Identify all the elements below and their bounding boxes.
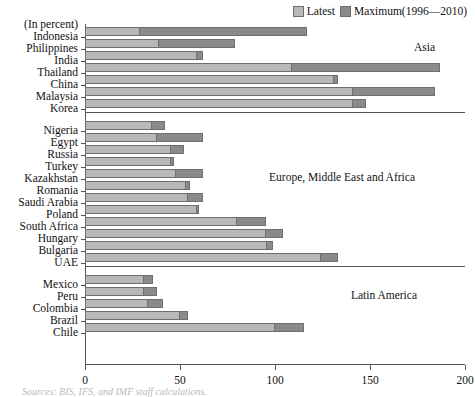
bar-latest	[85, 169, 176, 178]
source-note: Sources: BIS, IFS, and IMF staff calcula…	[22, 386, 462, 397]
x-axis-tick-label: 150	[361, 374, 378, 386]
bar-row	[85, 87, 465, 96]
y-axis-tick	[81, 333, 85, 334]
region-annotation: Asia	[414, 41, 435, 53]
bar-latest	[85, 39, 159, 48]
bar-latest	[85, 241, 267, 250]
bar-row	[85, 75, 465, 84]
bar-latest	[85, 229, 266, 238]
bar-latest	[85, 157, 171, 166]
y-axis-tick	[81, 239, 85, 240]
bar-row	[85, 133, 465, 142]
x-axis-tick-label: 100	[266, 374, 283, 386]
bar-latest	[85, 75, 334, 84]
bar-row	[85, 205, 465, 214]
bar-latest	[85, 51, 197, 60]
y-axis-tick	[81, 251, 85, 252]
y-axis-tick	[81, 215, 85, 216]
y-axis-tick	[81, 167, 85, 168]
x-axis-tick	[275, 365, 276, 370]
category-label: South Africa	[20, 221, 78, 232]
chart-figure: Latest Maximum(1996—2010) (In percent)In…	[0, 0, 475, 397]
y-axis-tick	[81, 143, 85, 144]
bar-latest	[85, 205, 197, 214]
legend-item-maximum: Maximum(1996—2010)	[340, 5, 467, 17]
y-axis-tick	[81, 191, 85, 192]
legend-swatch-maximum-icon	[340, 6, 351, 17]
axis-unit-note: (In percent)	[24, 19, 78, 30]
bar-row	[85, 275, 465, 284]
group-separator	[85, 112, 465, 113]
category-label: Hungary	[38, 233, 78, 244]
bar-latest	[85, 181, 186, 190]
category-label: Indonesia	[33, 31, 78, 42]
category-label: Peru	[57, 291, 78, 302]
x-axis-tick-label: 50	[174, 374, 186, 386]
group-separator	[85, 266, 465, 267]
bar-latest	[85, 133, 157, 142]
category-label: Colombia	[33, 303, 78, 314]
bar-row	[85, 63, 465, 72]
bar-row	[85, 27, 465, 36]
category-label: Thailand	[37, 67, 78, 78]
bar-latest	[85, 99, 353, 108]
category-label: Turkey	[45, 161, 78, 172]
y-axis-tick	[81, 179, 85, 180]
x-axis-tick	[370, 365, 371, 370]
y-axis-tick	[81, 73, 85, 74]
category-label: Korea	[50, 103, 78, 114]
plot-area: 050100150200	[85, 24, 465, 365]
category-label: Romania	[36, 185, 78, 196]
bar-row	[85, 145, 465, 154]
y-axis-tick	[81, 85, 85, 86]
y-axis-tick	[81, 297, 85, 298]
y-axis-tick	[81, 37, 85, 38]
category-label: Nigeria	[44, 125, 78, 136]
bar-latest	[85, 27, 140, 36]
bar-latest	[85, 193, 188, 202]
y-axis-tick	[81, 109, 85, 110]
bar-latest	[85, 253, 321, 262]
category-label: Poland	[46, 209, 78, 220]
bar-latest	[85, 63, 292, 72]
category-label: Saudi Arabia	[18, 197, 78, 208]
legend-item-latest: Latest	[293, 5, 335, 17]
bar-row	[85, 323, 465, 332]
category-label: Chile	[53, 327, 78, 338]
bar-latest	[85, 121, 152, 130]
chart-legend: Latest Maximum(1996—2010)	[293, 5, 467, 17]
category-label: Philippines	[26, 43, 78, 54]
y-axis-tick	[81, 131, 85, 132]
region-annotation: Europe, Middle East and Africa	[269, 171, 415, 183]
y-axis-tick	[81, 263, 85, 264]
category-label: Bulgaria	[38, 245, 78, 256]
y-axis-tick	[81, 285, 85, 286]
y-axis-tick	[81, 49, 85, 50]
bar-row	[85, 51, 465, 60]
x-axis-tick	[465, 365, 466, 370]
region-annotation: Latin America	[351, 289, 417, 301]
bar-latest	[85, 217, 237, 226]
x-axis-tick-label: 200	[456, 374, 473, 386]
bar-row	[85, 193, 465, 202]
y-axis-tick	[81, 309, 85, 310]
bar-row	[85, 229, 465, 238]
legend-swatch-latest-icon	[293, 6, 304, 17]
y-axis-tick	[81, 227, 85, 228]
category-label: Kazakhstan	[24, 173, 78, 184]
category-label: India	[54, 55, 78, 66]
bar-row	[85, 39, 465, 48]
category-label: Brazil	[50, 315, 78, 326]
x-axis-tick	[180, 365, 181, 370]
category-label: Egypt	[51, 137, 78, 148]
category-label: Malaysia	[36, 91, 78, 102]
bar-row	[85, 311, 465, 320]
bar-latest	[85, 145, 171, 154]
x-axis-tick	[85, 365, 86, 370]
legend-label-latest: Latest	[307, 5, 335, 17]
bar-row	[85, 241, 465, 250]
legend-label-maximum: Maximum(1996—2010)	[354, 5, 467, 17]
category-axis-labels: (In percent)IndonesiaPhilippinesIndiaTha…	[0, 24, 82, 365]
bar-latest	[85, 87, 353, 96]
y-axis-tick	[81, 155, 85, 156]
